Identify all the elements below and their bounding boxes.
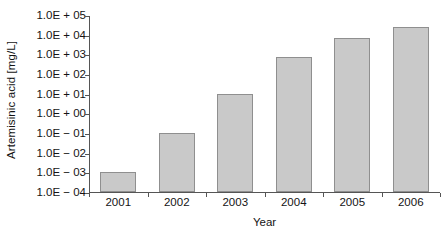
y-axis-tick-label: 1.0E + 01 <box>24 89 86 101</box>
y-axis-tick-label: 1.0E + 04 <box>24 30 86 42</box>
bar-2006 <box>393 27 429 192</box>
y-axis-tick-mark <box>85 154 89 155</box>
y-axis-tick-mark <box>85 95 89 96</box>
x-axis-tick-label: 2003 <box>206 196 265 208</box>
x-axis-title: Year <box>89 216 440 228</box>
y-axis-tick-mark <box>85 134 89 135</box>
x-axis-tick-labels: 200120022003200420052006 <box>89 196 440 212</box>
x-axis-tick-label: 2005 <box>323 196 382 208</box>
y-axis-tick-mark <box>85 55 89 56</box>
x-axis-tick-mark <box>440 193 441 197</box>
y-axis-tick-label: 1.0E + 00 <box>24 108 86 120</box>
y-axis-tick-mark <box>85 75 89 76</box>
y-axis-tick-label: 1.0E − 02 <box>24 148 86 160</box>
y-axis-title-label: Artemisinic acid [mg/L] <box>5 41 17 159</box>
bar-chart: Artemisinic acid [mg/L] 1.0E + 051.0E + … <box>0 0 447 238</box>
x-axis-tick-label: 2006 <box>382 196 441 208</box>
bar-2002 <box>159 133 195 192</box>
y-axis-tick-label: 1.0E − 03 <box>24 167 86 179</box>
y-axis-tick-label: 1.0E − 01 <box>24 128 86 140</box>
y-axis-tick-label: 1.0E + 05 <box>24 10 86 22</box>
y-axis-tick-labels: 1.0E + 051.0E + 041.0E + 031.0E + 021.0E… <box>24 16 86 193</box>
y-axis-tick-label: 1.0E + 02 <box>24 69 86 81</box>
y-axis-title: Artemisinic acid [mg/L] <box>0 0 22 200</box>
y-axis-tick-mark <box>85 36 89 37</box>
x-axis-tick-label: 2004 <box>265 196 324 208</box>
y-axis-tick-label: 1.0E − 04 <box>24 187 86 199</box>
y-axis-tick-label: 1.0E + 03 <box>24 49 86 61</box>
y-axis-tick-mark <box>85 16 89 17</box>
y-axis-tick-mark <box>85 114 89 115</box>
x-axis-tick-label: 2002 <box>148 196 207 208</box>
x-axis-tick-label: 2001 <box>89 196 148 208</box>
y-axis-tick-mark <box>85 173 89 174</box>
plot-area <box>89 16 440 193</box>
bar-2001 <box>100 172 136 192</box>
bar-2005 <box>334 38 370 192</box>
bar-2003 <box>217 94 253 192</box>
bar-2004 <box>276 57 312 192</box>
y-axis-line <box>89 16 90 193</box>
